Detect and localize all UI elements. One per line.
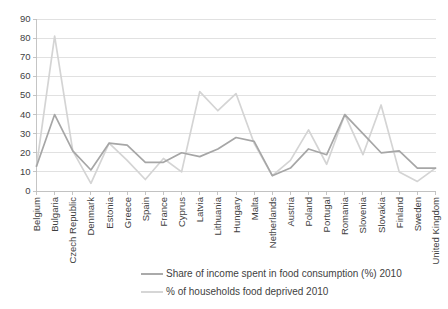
x-tick-label-romania: Romania bbox=[339, 196, 350, 235]
x-tick-label-bulgaria: Bulgaria bbox=[49, 196, 60, 232]
y-tick-label: 20 bbox=[20, 147, 31, 158]
y-tick-label: 50 bbox=[20, 89, 31, 100]
series-line-1 bbox=[37, 115, 436, 176]
x-tick-label-france: France bbox=[158, 197, 169, 227]
legend-label-2: % of households food deprived 2010 bbox=[166, 286, 329, 297]
x-tick-label-lithuania: Lithuania bbox=[212, 196, 223, 235]
x-tick-label-greece: Greece bbox=[122, 197, 133, 228]
y-tick-label: 30 bbox=[20, 128, 31, 139]
x-axis bbox=[37, 191, 436, 195]
x-tick-labels: BelgiumBulgariaCzech RepublicDenmarkEsto… bbox=[31, 196, 441, 264]
series-lines bbox=[37, 36, 436, 183]
x-tick-label-spain: Spain bbox=[140, 197, 151, 221]
x-tick-label-portugal: Portugal bbox=[321, 197, 332, 232]
line-chart: 0102030405060708090 BelgiumBulgariaCzech… bbox=[0, 0, 448, 309]
x-tick-label-slovenia: Slovenia bbox=[357, 196, 368, 233]
y-tick-label: 80 bbox=[20, 32, 31, 43]
x-tick-label-finland: Finland bbox=[394, 197, 405, 228]
x-tick-label-estonia: Estonia bbox=[104, 196, 115, 228]
y-tick-label: 70 bbox=[20, 51, 31, 62]
x-tick-label-united-kingdom: United Kingdom bbox=[430, 197, 441, 265]
x-tick-label-malta: Malta bbox=[249, 196, 260, 220]
x-tick-label-netherlands: Netherlands bbox=[267, 197, 278, 248]
x-tick-label-denmark: Denmark bbox=[85, 197, 96, 236]
x-tick-label-belgium: Belgium bbox=[31, 197, 42, 231]
y-tick-label: 40 bbox=[20, 109, 31, 120]
x-tick-label-latvia: Latvia bbox=[194, 196, 205, 222]
x-tick-label-czech-republic: Czech Republic bbox=[67, 197, 78, 264]
legend-label-1: Share of income spent in food consumptio… bbox=[166, 268, 402, 279]
x-tick-label-hungary: Hungary bbox=[231, 197, 242, 233]
chart-legend: Share of income spent in food consumptio… bbox=[141, 268, 402, 297]
x-tick-label-austria: Austria bbox=[285, 196, 296, 226]
y-tick-label: 90 bbox=[20, 13, 31, 24]
y-tick-label: 10 bbox=[20, 166, 31, 177]
gridlines bbox=[37, 19, 436, 191]
y-axis: 0102030405060708090 bbox=[20, 13, 37, 196]
y-tick-label: 60 bbox=[20, 70, 31, 81]
x-tick-label-poland: Poland bbox=[303, 197, 314, 227]
x-tick-label-sweden: Sweden bbox=[412, 197, 423, 231]
x-tick-label-slovakia: Slovakia bbox=[376, 196, 387, 233]
y-tick-label: 0 bbox=[25, 185, 30, 196]
chart-container: 0102030405060708090 BelgiumBulgariaCzech… bbox=[0, 0, 448, 309]
x-tick-label-cyprus: Cyprus bbox=[176, 197, 187, 227]
